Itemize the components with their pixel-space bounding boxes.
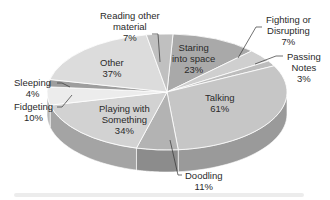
label-staring: Staring into space 23% <box>172 42 215 75</box>
pie-slices <box>47 34 287 150</box>
label-talking: Talking 61% <box>205 92 235 114</box>
illegible-caption <box>14 193 304 197</box>
label-passing: Passing Notes 3% <box>287 51 321 84</box>
label-playing: Playing with Something 34% <box>99 103 150 136</box>
label-fighting: Fighting or Disrupting 7% <box>266 14 311 47</box>
label-sleeping: Sleeping 4% <box>14 77 51 99</box>
slice-side <box>136 148 178 172</box>
label-reading: Reading other material 7% <box>100 10 160 43</box>
label-fidgeting: Fidgeting 10% <box>14 101 53 123</box>
label-doodling: Doodling 11% <box>185 170 223 192</box>
label-other: Other 37% <box>100 57 124 79</box>
